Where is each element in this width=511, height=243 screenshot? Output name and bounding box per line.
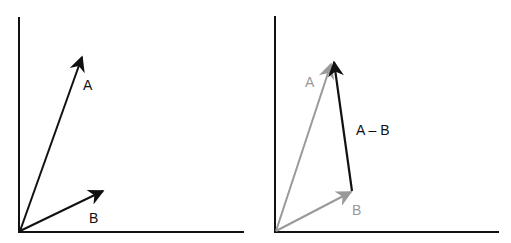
right-label-b: B <box>352 202 361 218</box>
right-label-difference: A – B <box>356 122 389 138</box>
right-panel: A A – B B <box>274 16 499 233</box>
right-label-a: A <box>305 74 315 90</box>
left-panel: A B <box>18 17 244 233</box>
vector-subtraction-diagram: A B A A – B B <box>0 0 511 243</box>
right-vector-a-minus-b <box>334 62 352 191</box>
left-label-a: A <box>83 77 93 93</box>
left-label-b: B <box>89 210 98 226</box>
